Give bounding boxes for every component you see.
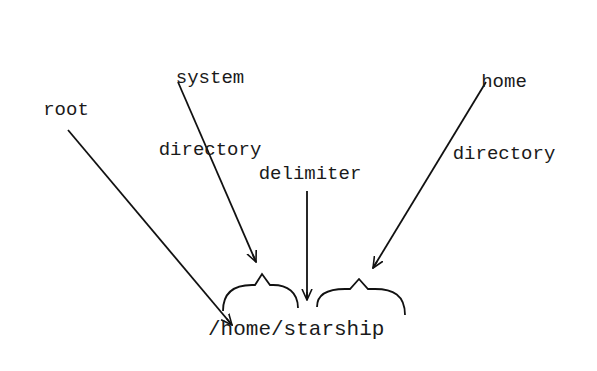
path-anatomy-diagram: system directory home directory root del…: [0, 0, 597, 371]
root-label: root: [26, 98, 106, 122]
delimiter-label: delimiter: [235, 162, 385, 186]
system-directory-line2: directory: [140, 138, 280, 162]
path-text: /home/starship: [208, 318, 458, 342]
starship-segment-brace: [317, 279, 405, 315]
system-directory-line1: system: [140, 66, 280, 90]
home-directory-line2: directory: [434, 142, 574, 166]
home-segment-brace: [223, 274, 298, 311]
home-directory-label: home directory: [434, 22, 574, 214]
home-directory-line1: home: [434, 70, 574, 94]
